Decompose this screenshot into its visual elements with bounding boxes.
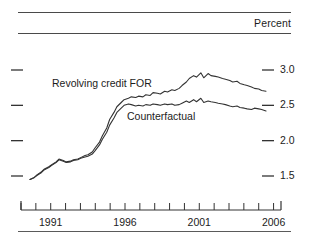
x-tick-label: 2006 [262,216,285,228]
left-axis-ticks [11,70,23,176]
x-tick-label: 1996 [113,216,136,228]
series-label-revolving-credit: Revolving credit FOR [52,77,152,89]
bottom-rule [18,231,291,232]
chart-figure: Percent Revolving credit FOR Counterfact… [0,0,309,244]
y-tick-label: 3.0 [280,63,295,75]
y-tick-label: 2.0 [280,134,295,146]
x-axis [21,201,281,210]
series-label-counterfactual: Counterfactual [127,110,195,122]
right-axis-ticks [262,70,274,176]
x-tick-label: 1991 [39,216,62,228]
x-tick-label: 2001 [188,216,211,228]
plot-area [0,0,309,244]
y-tick-label: 2.5 [280,98,295,110]
y-tick-label: 1.5 [280,169,295,181]
